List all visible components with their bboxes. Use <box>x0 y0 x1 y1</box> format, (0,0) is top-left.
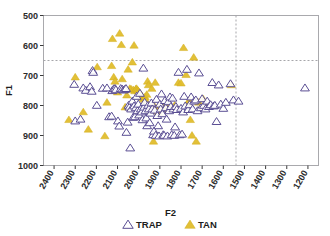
legend-marker-trap <box>123 220 133 228</box>
y-tick-label-700: 700 <box>23 71 38 81</box>
x-tick-label-2300: 2300 <box>58 169 77 191</box>
y-axis-title: F1 <box>3 84 14 96</box>
x-tick-label-1200: 1200 <box>291 169 310 191</box>
x-tick-label-2400: 2400 <box>37 169 56 191</box>
x-tick-label-1900: 1900 <box>143 169 162 191</box>
x-tick-label-1600: 1600 <box>206 169 225 191</box>
x-tick-label-1800: 1800 <box>164 169 183 191</box>
legend-label-trap: TRAP <box>136 219 163 230</box>
x-tick-label-2000: 2000 <box>122 169 141 191</box>
y-tick-label-600: 600 <box>23 41 38 51</box>
x-tick-label-2200: 2200 <box>79 169 98 191</box>
y-tick-label-900: 900 <box>23 131 38 141</box>
x-tick-label-1500: 1500 <box>228 169 247 191</box>
y-tick-label-500: 500 <box>23 11 38 21</box>
x-tick-label-1400: 1400 <box>249 169 268 191</box>
legend-marker-tan <box>185 220 195 228</box>
x-tick-label-1700: 1700 <box>185 169 204 191</box>
x-tick-label-1300: 1300 <box>270 169 289 191</box>
x-axis-title: F2 <box>165 207 176 218</box>
scatter-plot-figure: 2400230022002100200019001800170016001500… <box>0 0 330 236</box>
legend-label-tan: TAN <box>198 219 217 230</box>
y-tick-label-1000: 1000 <box>18 161 38 171</box>
y-tick-label-800: 800 <box>23 101 38 111</box>
plot-canvas: 2400230022002100200019001800170016001500… <box>0 0 330 236</box>
x-tick-label-2100: 2100 <box>101 169 120 191</box>
